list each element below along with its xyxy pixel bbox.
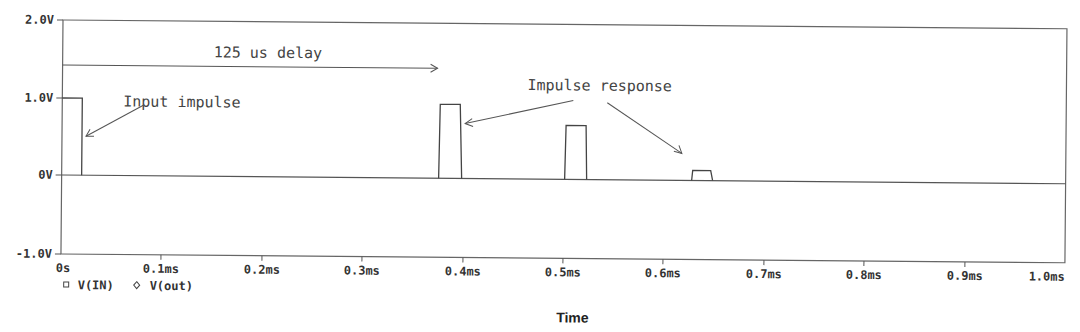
y-tick-label: 0V bbox=[38, 168, 53, 182]
diamond-marker-icon bbox=[134, 282, 140, 289]
y-tick-label: 2.0V bbox=[25, 13, 54, 27]
trace-v-out bbox=[692, 170, 713, 180]
annotation-delay: 125 us delay bbox=[214, 43, 323, 62]
response-arrow-2 bbox=[607, 103, 682, 154]
zero-line bbox=[62, 175, 1066, 184]
x-tick-label: 0.4ms bbox=[445, 264, 481, 278]
x-tick-label: 0s bbox=[56, 261, 71, 275]
trace-v-out bbox=[565, 125, 587, 179]
annotation-input-impulse: Input impulse bbox=[123, 93, 241, 112]
y-tick-label: 1.0V bbox=[24, 91, 53, 105]
x-tick-label: 0.2ms bbox=[244, 263, 280, 277]
legend-v-out: V(out) bbox=[150, 279, 193, 293]
square-marker-icon bbox=[64, 282, 69, 287]
response-arrow-1 bbox=[465, 100, 573, 125]
y-tick-label: -1.0V bbox=[16, 247, 52, 261]
delay-arrow bbox=[63, 65, 438, 68]
x-tick-label: 0.3ms bbox=[344, 263, 380, 277]
x-tick-label: 0.8ms bbox=[846, 268, 882, 282]
transient-plot: 2.0V 1.0V 0V -1.0V 0s 0.1ms 0.2ms 0.3ms … bbox=[0, 0, 1080, 332]
trace-v-out bbox=[439, 104, 463, 178]
plot-area: 2.0V 1.0V 0V -1.0V 0s 0.1ms 0.2ms 0.3ms … bbox=[15, 13, 1067, 330]
x-tick-label: 0.7ms bbox=[746, 267, 782, 281]
x-tick-label: 0.5ms bbox=[545, 265, 581, 279]
annotation-impulse-response: Impulse response bbox=[527, 76, 672, 95]
trace-v-in bbox=[62, 98, 83, 175]
input-arrow bbox=[86, 104, 144, 137]
x-tick-label: 1.0ms bbox=[1029, 269, 1065, 283]
plot-frame bbox=[61, 20, 1067, 263]
legend-v-in: V(IN) bbox=[78, 278, 114, 292]
x-tick-label: 0.9ms bbox=[947, 269, 983, 283]
x-tick-label: 0.1ms bbox=[143, 262, 179, 276]
x-axis-title: Time bbox=[556, 309, 589, 325]
x-tick-label: 0.6ms bbox=[645, 266, 681, 280]
